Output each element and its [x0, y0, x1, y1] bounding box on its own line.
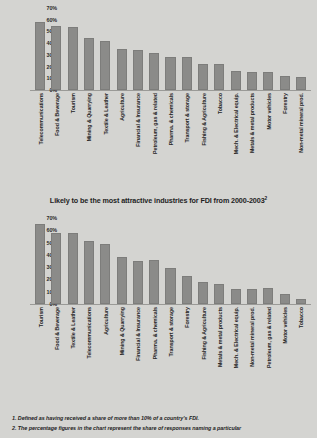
- bar-slot: [146, 218, 162, 304]
- bar-slot: [179, 8, 195, 90]
- bar-slot: [244, 8, 260, 90]
- x-axis-label: Petroleum, gas & related: [266, 307, 272, 368]
- x-axis-label: Transport & storage: [168, 307, 174, 356]
- x-label-slot: Forestry: [179, 305, 195, 401]
- x-label-slot: Mining & Quarrying: [81, 91, 97, 183]
- x-axis-label: Mining & Quarrying: [119, 307, 125, 355]
- footnote-1: 1. Defined as having received a share of…: [12, 413, 312, 423]
- x-label-slot: Motor vehicles: [260, 91, 276, 183]
- bar: [182, 57, 192, 90]
- bar: [68, 233, 78, 304]
- x-axis-label: Mining & Quarrying: [86, 93, 92, 141]
- x-axis-label: Mech. & Electrical equip.: [233, 93, 239, 154]
- bar: [133, 261, 143, 304]
- bar-slot: [195, 8, 211, 90]
- bar-slot: [97, 218, 113, 304]
- x-axis-label: Forestry: [282, 93, 288, 114]
- x-axis-label: Petroleum, gas & related: [152, 93, 158, 154]
- x-axis-label: Agriculture: [103, 307, 109, 335]
- x-label-slot: Textile & Leather: [65, 305, 81, 401]
- bar: [198, 64, 208, 90]
- bar: [35, 22, 45, 90]
- x-label-slot: Petroleum, gas & related: [260, 305, 276, 401]
- plot-area-top: 70%60%50%40%30%20%10%0%: [30, 8, 311, 91]
- bar: [214, 64, 224, 90]
- x-axis-label: Food & Beverage: [54, 93, 60, 136]
- x-label-slot: Metals & metal products: [244, 91, 260, 183]
- bar-slot: [228, 8, 244, 90]
- bar: [84, 241, 94, 304]
- x-axis-label: Financial & Insurance: [135, 307, 141, 361]
- bar: [263, 288, 273, 304]
- x-label-slot: Tourism: [32, 305, 48, 401]
- x-axis-label: Food & Beverage: [54, 307, 60, 350]
- x-label-slot: Transport & storage: [179, 91, 195, 183]
- x-axis-label: Metals & metal products: [217, 307, 223, 367]
- footnotes: 1. Defined as having received a share of…: [12, 413, 312, 433]
- chart-caption: Likely to be the most attractive industr…: [0, 196, 317, 205]
- x-label-slot: Fishing & Agriculture: [195, 305, 211, 401]
- x-axis-label: Financial & Insurance: [135, 93, 141, 147]
- bar-slot: [113, 218, 129, 304]
- x-axis-label: Fishing & Agriculture: [201, 93, 207, 146]
- bar: [231, 289, 241, 304]
- bar: [117, 257, 127, 304]
- x-axis-label: Metals & metal products: [249, 93, 255, 153]
- x-axis-label: Tobacco: [298, 307, 304, 328]
- x-axis-label: Pharma. & chemicals: [152, 307, 158, 359]
- x-label-slot: Pharma. & chemicals: [146, 305, 162, 401]
- bar-slot: [244, 218, 260, 304]
- bar-series-top: [30, 8, 311, 90]
- bar: [165, 268, 175, 304]
- x-label-slot: Agriculture: [97, 305, 113, 401]
- bar-slot: [211, 218, 227, 304]
- x-label-slot: Telecommunications: [32, 91, 48, 183]
- x-label-slot: Transport & storage: [162, 305, 178, 401]
- x-axis-labels-bottom: TourismFood & BeverageTextile & LeatherT…: [30, 305, 311, 401]
- bar-slot: [211, 8, 227, 90]
- footnote-2: 2. The percentage figures in the chart r…: [12, 423, 312, 433]
- x-axis-label: Mech. & Electrical equip.: [233, 307, 239, 368]
- bar-slot: [48, 218, 64, 304]
- bar-slot: [260, 8, 276, 90]
- bar-slot: [65, 218, 81, 304]
- bar: [84, 38, 94, 90]
- x-label-slot: Financial & Insurance: [130, 91, 146, 183]
- bar-slot: [162, 218, 178, 304]
- x-axis-label: Textile & Leather: [70, 307, 76, 348]
- bar-slot: [179, 218, 195, 304]
- chart-top: 70%60%50%40%30%20%10%0% Telecommunicatio…: [0, 8, 317, 188]
- bar: [198, 282, 208, 304]
- x-axis-label: Pharma. & chemicals: [168, 93, 174, 145]
- bar-slot: [48, 8, 64, 90]
- bar: [51, 233, 61, 304]
- bar-series-bottom: [30, 218, 311, 304]
- x-label-slot: Food & Beverage: [48, 305, 64, 401]
- x-axis-label: Non-metal mineral prod.: [249, 307, 255, 367]
- bar: [280, 76, 290, 90]
- x-axis-label: Forestry: [184, 307, 190, 328]
- x-label-slot: Pharma. & chemicals: [162, 91, 178, 183]
- x-axis-label: Telecommunications: [38, 93, 44, 144]
- x-label-slot: Textile & Leather: [97, 91, 113, 183]
- bar: [263, 72, 273, 90]
- bar-slot: [81, 8, 97, 90]
- x-label-slot: Forestry: [276, 91, 292, 183]
- bar-slot: [130, 8, 146, 90]
- x-label-slot: Metals & metal products: [211, 305, 227, 401]
- x-label-slot: Non-metal mineral prod.: [244, 305, 260, 401]
- x-label-slot: Tobacco: [293, 305, 309, 401]
- x-label-slot: Mining & Quarrying: [113, 305, 129, 401]
- bar-slot: [276, 8, 292, 90]
- bar: [280, 294, 290, 304]
- bar: [296, 299, 306, 304]
- bar-slot: [97, 8, 113, 90]
- bar: [133, 50, 143, 90]
- x-label-slot: Fishing & Agriculture: [195, 91, 211, 183]
- bar: [100, 41, 110, 90]
- chart-bottom: 70%60%50%40%30%20%10%0% TourismFood & Be…: [0, 218, 317, 410]
- bar: [117, 49, 127, 90]
- x-axis-label: Tourism: [70, 93, 76, 113]
- bar-slot: [81, 218, 97, 304]
- bar-slot: [130, 218, 146, 304]
